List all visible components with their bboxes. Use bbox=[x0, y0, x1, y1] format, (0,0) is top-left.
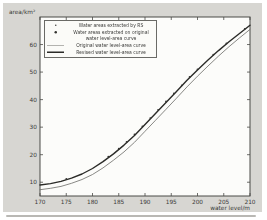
legend-inner: Water areas extracted by RS Water areas … bbox=[45, 21, 156, 55]
y-tick-label: 60 bbox=[30, 42, 38, 48]
legend-label: Water areas extracted on original bbox=[66, 30, 156, 35]
legend-entry: Water areas extracted on original bbox=[45, 29, 156, 36]
data-point-marker bbox=[173, 92, 175, 94]
scan-shadow bbox=[6, 215, 256, 217]
legend: Water areas extracted by RS Water areas … bbox=[44, 20, 157, 58]
x-tick-label: 200 bbox=[192, 199, 203, 205]
data-point-marker bbox=[189, 76, 191, 78]
y-tick-label: 10 bbox=[30, 179, 38, 185]
x-tick-label: 190 bbox=[139, 199, 150, 205]
x-tick-label: 175 bbox=[61, 199, 72, 205]
dot-marker-icon bbox=[45, 31, 66, 34]
data-point-marker bbox=[118, 148, 120, 150]
thin-line-sample-icon bbox=[45, 45, 66, 46]
x-tick-label: 180 bbox=[87, 199, 98, 205]
x-tick-label: 170 bbox=[34, 199, 45, 205]
data-point-marker bbox=[212, 54, 214, 56]
data-point-marker bbox=[181, 84, 183, 86]
legend-entry: Original water level-area curve bbox=[45, 42, 156, 49]
y-tick-label: 30 bbox=[30, 124, 38, 130]
data-point-marker bbox=[134, 133, 136, 135]
x-axis-label: water level/m bbox=[210, 205, 250, 211]
legend-label: Revised water level-area curve bbox=[66, 50, 156, 55]
x-tick-label: 185 bbox=[113, 199, 124, 205]
data-point-marker bbox=[226, 43, 228, 45]
data-point-marker bbox=[149, 117, 151, 119]
legend-entry: Water areas extracted by RS bbox=[45, 22, 156, 29]
data-point-marker bbox=[197, 68, 199, 70]
data-point-marker bbox=[244, 28, 246, 30]
legend-label: water level-area curve bbox=[66, 36, 156, 41]
x-tick-label: 195 bbox=[166, 199, 177, 205]
thick-line-sample-icon bbox=[45, 51, 66, 53]
legend-label: Original water level-area curve bbox=[66, 43, 156, 48]
data-point-marker bbox=[142, 125, 144, 127]
data-point-marker bbox=[157, 109, 159, 111]
data-point-marker bbox=[165, 101, 167, 103]
legend-entry: Revised water level-area curve bbox=[45, 49, 156, 56]
data-point-marker bbox=[107, 156, 109, 158]
legend-entry: water level-area curve bbox=[45, 35, 156, 42]
data-point-marker bbox=[65, 178, 67, 180]
y-tick-label: 50 bbox=[30, 69, 38, 75]
y-tick-label: 40 bbox=[30, 97, 38, 103]
y-axis-label: area/km² bbox=[9, 9, 35, 15]
legend-label: Water areas extracted by RS bbox=[66, 23, 156, 28]
dot-marker-icon bbox=[45, 25, 66, 27]
y-tick-label: 20 bbox=[30, 152, 38, 158]
data-point-marker bbox=[126, 141, 128, 143]
